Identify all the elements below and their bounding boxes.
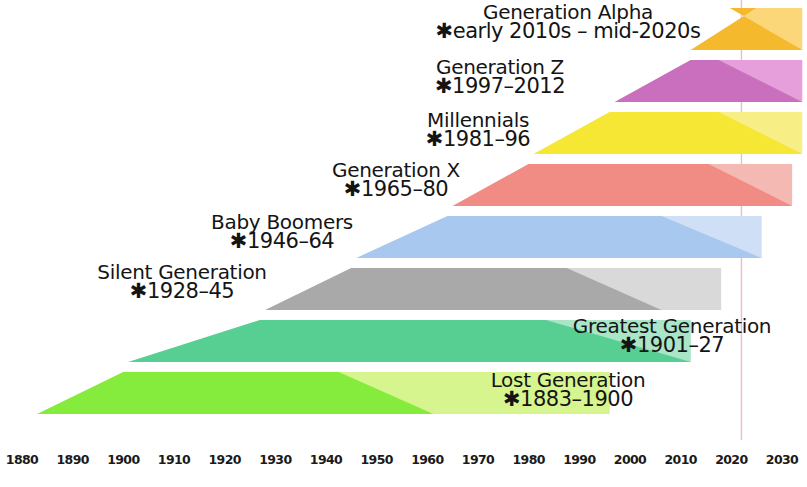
generations-timeline-chart: Generation Alpha✱early 2010s – mid-2020s… — [0, 0, 807, 487]
generation-label: Millennials✱1981–96 — [426, 110, 530, 151]
generation-years: ✱1997–2012 — [435, 76, 565, 97]
generation-years: ✱1901–27 — [573, 335, 771, 356]
generation-band — [453, 164, 792, 206]
x-tick-label: 1990 — [563, 452, 595, 467]
generation-band — [615, 60, 802, 102]
generation-label: Lost Generation✱1883–1900 — [491, 370, 646, 411]
generation-band — [534, 112, 803, 154]
chart-plot-area: Generation Alpha✱early 2010s – mid-2020s… — [0, 0, 807, 440]
x-tick-label: 1920 — [208, 452, 240, 467]
x-tick-label: 2000 — [614, 452, 646, 467]
x-tick-label: 1980 — [512, 452, 544, 467]
generation-label: Silent Generation✱1928–45 — [97, 262, 266, 303]
generation-band — [691, 8, 802, 50]
x-tick-label: 2020 — [715, 452, 747, 467]
x-tick-label: 2030 — [766, 452, 798, 467]
x-tick-label: 1880 — [6, 452, 38, 467]
x-tick-label: 1900 — [107, 452, 139, 467]
generation-label: Greatest Generation✱1901–27 — [573, 316, 771, 357]
generation-years: ✱1883–1900 — [491, 389, 646, 410]
x-tick-label: 1960 — [411, 452, 443, 467]
generation-label: Generation X✱1965–80 — [332, 160, 460, 201]
generation-years: ✱1965–80 — [332, 179, 460, 200]
generation-band — [356, 216, 761, 258]
x-tick-label: 1930 — [259, 452, 291, 467]
x-tick-label: 1890 — [56, 452, 88, 467]
x-tick-label: 1910 — [158, 452, 190, 467]
generation-years: ✱early 2010s – mid-2020s — [436, 21, 701, 42]
generation-label: Generation Alpha✱early 2010s – mid-2020s — [436, 2, 701, 43]
generation-band — [265, 268, 721, 310]
generation-years: ✱1928–45 — [97, 281, 266, 302]
generation-years: ✱1981–96 — [426, 129, 530, 150]
generation-bands — [0, 0, 807, 440]
x-tick-label: 2010 — [664, 452, 696, 467]
generation-label: Generation Z✱1997–2012 — [435, 57, 565, 98]
x-tick-label: 1970 — [462, 452, 494, 467]
generation-label: Baby Boomers✱1946–64 — [211, 212, 353, 253]
x-axis-tick-labels: 1880189019001910192019301940195019601970… — [0, 452, 807, 482]
x-tick-label: 1940 — [310, 452, 342, 467]
generation-years: ✱1946–64 — [211, 231, 353, 252]
x-tick-label: 1950 — [360, 452, 392, 467]
